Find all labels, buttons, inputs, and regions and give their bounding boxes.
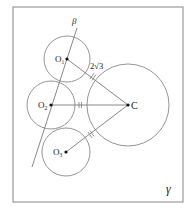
point-o2 bbox=[49, 103, 52, 106]
point-c-label: C bbox=[131, 100, 138, 111]
point-c bbox=[126, 103, 129, 106]
line-beta-label: β bbox=[71, 16, 77, 26]
segment-length-label: 2√3 bbox=[90, 61, 103, 71]
plane-gamma-label: γ bbox=[166, 182, 171, 196]
point-o1 bbox=[65, 57, 68, 60]
diagram-canvas: β O1 O2 O3 C 2√3 γ bbox=[0, 0, 193, 210]
point-o3 bbox=[64, 150, 67, 153]
